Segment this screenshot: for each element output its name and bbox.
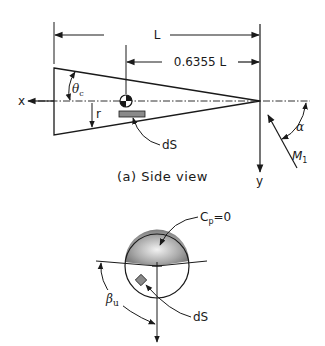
- cp-label: Cp=0: [200, 210, 231, 226]
- front-view: Cp=0 dS βu: [96, 210, 231, 342]
- side-view-caption: (a) Side view: [117, 169, 208, 184]
- ds-label-side: dS: [162, 138, 177, 152]
- radius-label: r: [96, 107, 101, 121]
- surface-element-side: [119, 111, 145, 117]
- alpha-label: α: [296, 120, 304, 134]
- x-axis-label: x: [18, 94, 25, 108]
- ds-label-front: dS: [193, 310, 208, 324]
- dimension-cg-label: 0.6355 L: [174, 55, 227, 69]
- ds-leader-front: [146, 285, 191, 317]
- cone-outline: [54, 68, 260, 135]
- moment-label: M1: [292, 149, 307, 165]
- cone-diagram: L 0.6355 L x θc r dS α M1 y: [0, 0, 325, 346]
- y-axis-label: y: [256, 174, 263, 188]
- center-of-gravity-icon: [120, 95, 132, 107]
- ds-leader: [133, 118, 160, 145]
- dimension-L-label: L: [154, 28, 161, 42]
- theta-c-label: θc: [72, 82, 84, 98]
- side-view: L 0.6355 L x θc r dS α M1 y: [18, 22, 310, 188]
- shaded-cap: [125, 230, 189, 266]
- surface-element-front: [135, 274, 146, 285]
